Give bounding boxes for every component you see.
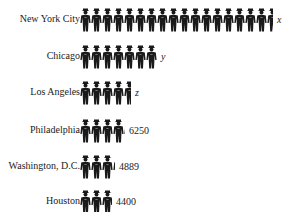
police-officer-icon bbox=[80, 190, 91, 212]
police-officer-icon bbox=[146, 8, 157, 32]
category-label: Washington, D.C. bbox=[9, 160, 80, 171]
police-officer-icon bbox=[102, 155, 113, 179]
category-label: New York City bbox=[20, 13, 80, 24]
police-officer-icon bbox=[146, 45, 157, 69]
icon-bar bbox=[80, 190, 112, 212]
icon-bar bbox=[80, 155, 115, 179]
police-officer-icon bbox=[91, 81, 102, 105]
police-officer-icon bbox=[80, 155, 91, 179]
category-label: Philadelphia bbox=[30, 124, 80, 135]
police-officer-icon bbox=[256, 8, 267, 32]
police-officer-icon bbox=[267, 8, 273, 32]
police-officer-icon bbox=[80, 8, 91, 32]
police-officer-icon bbox=[113, 119, 124, 143]
chart-row-chicago: Chicago y bbox=[0, 45, 297, 69]
police-officer-icon bbox=[113, 8, 124, 32]
chart-row-houston: Houston 4400 bbox=[0, 190, 297, 212]
police-officer-icon bbox=[245, 8, 256, 32]
police-officer-icon bbox=[80, 119, 91, 143]
icon-bar bbox=[80, 8, 273, 32]
police-officer-icon bbox=[157, 8, 168, 32]
icon-bar bbox=[80, 45, 157, 69]
icon-bar bbox=[80, 81, 131, 105]
police-officer-icon bbox=[102, 8, 113, 32]
police-officer-icon bbox=[234, 8, 245, 32]
police-officer-icon bbox=[124, 8, 135, 32]
police-officer-icon bbox=[124, 45, 135, 69]
police-officer-icon bbox=[223, 8, 234, 32]
chart-row-washington-dc: Washington, D.C. 4889 bbox=[0, 155, 297, 179]
police-officer-icon bbox=[113, 45, 124, 69]
value-label: z bbox=[135, 87, 139, 98]
police-officer-icon bbox=[102, 81, 113, 105]
category-label: Los Angeles bbox=[30, 86, 80, 97]
police-officer-icon bbox=[102, 45, 113, 69]
category-label: Houston bbox=[46, 195, 80, 206]
category-label: Chicago bbox=[47, 50, 80, 61]
value-label: 4400 bbox=[116, 196, 136, 207]
police-officer-icon bbox=[168, 8, 179, 32]
icon-bar bbox=[80, 119, 125, 143]
police-officer-icon bbox=[102, 119, 113, 143]
police-officer-icon bbox=[124, 81, 131, 105]
value-label: y bbox=[161, 51, 165, 62]
police-officer-icon bbox=[80, 81, 91, 105]
police-officer-icon bbox=[91, 190, 102, 212]
police-officer-icon bbox=[91, 45, 102, 69]
police-officer-icon bbox=[102, 190, 112, 212]
police-officer-icon bbox=[212, 8, 223, 32]
police-officer-icon bbox=[113, 155, 115, 179]
police-officer-icon bbox=[135, 8, 146, 32]
police-officer-icon bbox=[124, 119, 125, 143]
police-officer-icon bbox=[91, 8, 102, 32]
chart-row-los-angeles: Los Angeles z bbox=[0, 81, 297, 105]
chart-row-new-york-city: New York City x bbox=[0, 8, 297, 32]
value-label: 4889 bbox=[119, 161, 139, 172]
police-officer-icon bbox=[91, 155, 102, 179]
police-officer-icon bbox=[91, 119, 102, 143]
police-officer-icon bbox=[190, 8, 201, 32]
police-officer-icon bbox=[135, 45, 146, 69]
value-label: 6250 bbox=[129, 125, 149, 136]
police-officer-icon bbox=[201, 8, 212, 32]
police-officer-icon bbox=[80, 45, 91, 69]
chart-row-philadelphia: Philadelphia 6250 bbox=[0, 119, 297, 143]
police-officer-icon bbox=[179, 8, 190, 32]
police-officer-icon bbox=[113, 81, 124, 105]
value-label: x bbox=[277, 14, 281, 25]
